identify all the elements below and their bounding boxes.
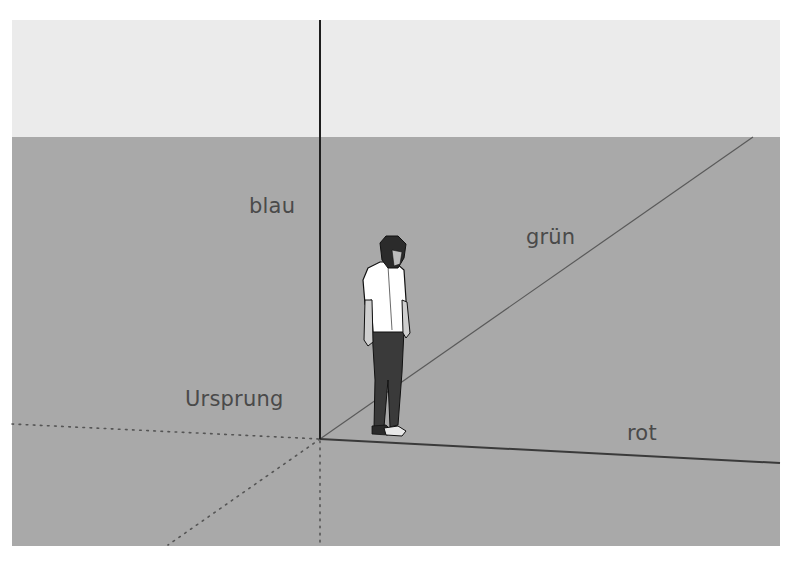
origin-label: Ursprung bbox=[185, 389, 283, 410]
blue-axis-label: blau bbox=[249, 196, 295, 217]
sky bbox=[12, 20, 780, 137]
3d-viewport[interactable] bbox=[0, 0, 790, 566]
red-axis-label: rot bbox=[627, 423, 657, 444]
green-axis-label: grün bbox=[526, 227, 575, 248]
